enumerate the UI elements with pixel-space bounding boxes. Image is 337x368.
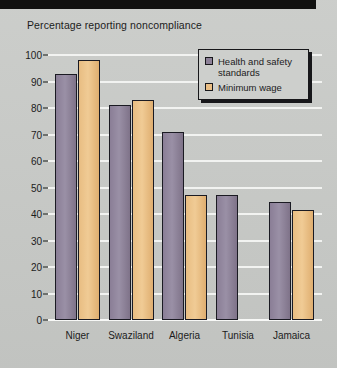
legend-label-health-and-safety: Health and safety standards [218,56,303,78]
legend-item-health-and-safety: Health and safety standards [205,56,303,78]
x-axis-label-swaziland: Swaziland [108,330,154,341]
y-axis-tick-label: 60 [8,156,42,167]
y-axis-tick-label: 30 [8,235,42,246]
y-axis-tick-mark [43,134,48,136]
bar-swaziland-health-and-safety [109,105,131,320]
legend-swatch-icon-minimum-wage [205,83,213,91]
y-axis-tick-label: 20 [8,262,42,273]
y-axis-tick-mark [43,266,48,268]
legend-swatch-icon-health-and-safety [205,57,213,65]
y-axis-tick-label: 0 [8,315,42,326]
y-axis-tick-label: 80 [8,103,42,114]
bar-algeria-health-and-safety [162,132,184,320]
y-axis-tick-mark [43,319,48,321]
bar-niger-minimum-wage [78,60,100,320]
bar-jamaica-health-and-safety [269,202,291,320]
bar-jamaica-minimum-wage [292,210,314,320]
y-axis-tick-mark [43,107,48,109]
x-axis-label-niger: Niger [66,330,90,341]
x-axis-label-algeria: Algeria [169,330,200,341]
y-axis-tick-label: 10 [8,288,42,299]
bar-tunisia-health-and-safety [216,195,238,320]
y-axis-tick-label: 70 [8,129,42,140]
y-axis-tick-mark [43,213,48,215]
chart-legend: Health and safety standards Minimum wage [198,49,309,100]
x-axis-label-jamaica: Jamaica [273,330,310,341]
y-axis-tick-mark [43,293,48,295]
y-axis-tick-label: 100 [8,50,42,61]
legend-label-minimum-wage: Minimum wage [218,82,282,93]
x-axis-label-tunisia: Tunisia [222,330,254,341]
y-axis-tick-mark [43,160,48,162]
y-axis-tick-mark [43,54,48,56]
bar-niger-health-and-safety [55,74,77,320]
y-axis-tick-mark [43,187,48,189]
bar-algeria-minimum-wage [185,195,207,320]
y-axis-tick-mark [43,81,48,83]
y-axis-tick-label: 40 [8,209,42,220]
y-axis-tick-label: 90 [8,76,42,87]
bar-swaziland-minimum-wage [132,100,154,320]
legend-item-minimum-wage: Minimum wage [205,82,303,93]
y-axis-tick-label: 50 [8,182,42,193]
y-axis-tick-mark [43,240,48,242]
